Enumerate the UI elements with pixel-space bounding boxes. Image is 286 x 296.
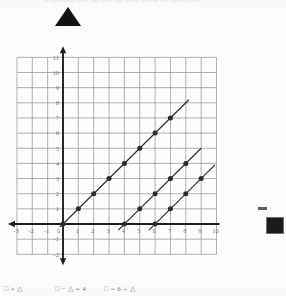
svg-text:1: 1 xyxy=(76,227,79,234)
svg-text:7: 7 xyxy=(168,227,172,234)
svg-text:11: 11 xyxy=(53,54,59,61)
legend-item-3-label: □ = 6 ÷ △ xyxy=(104,285,135,293)
svg-text:5: 5 xyxy=(137,227,140,234)
svg-text:0: 0 xyxy=(57,227,60,234)
data-point-s2-1 xyxy=(122,222,127,227)
axes xyxy=(8,46,220,265)
data-point-s2-3 xyxy=(153,191,158,196)
data-point-s3-2 xyxy=(168,206,173,211)
data-point-s1-5 xyxy=(122,161,127,166)
svg-text:-2: -2 xyxy=(54,251,59,258)
legend-item-2-label: □ − △ = 4 xyxy=(55,285,86,293)
data-point-s1-3 xyxy=(91,191,96,196)
data-point-s1-8 xyxy=(168,115,173,120)
data-point-s3-1 xyxy=(153,222,158,227)
svg-text:8: 8 xyxy=(56,99,59,106)
svg-text:-3: -3 xyxy=(13,227,18,234)
svg-text:6: 6 xyxy=(152,227,156,234)
svg-text:3: 3 xyxy=(56,175,59,182)
series-line-3 xyxy=(149,165,215,230)
legend-item-1-label: □ = △ xyxy=(4,285,23,293)
series-points xyxy=(61,115,204,226)
data-point-s3-3 xyxy=(183,191,188,196)
svg-text:10: 10 xyxy=(212,227,219,234)
svg-text:8: 8 xyxy=(183,227,186,234)
legend-item-2: □ − △ = 4 xyxy=(55,285,86,294)
svg-text:9: 9 xyxy=(199,227,202,234)
legend: □ = △ □ − △ = 4 □ = 6 ÷ △ xyxy=(0,283,286,296)
tick-labels: -3-2-1123456789100-2-11234567891011 xyxy=(13,54,219,258)
data-point-s1-2 xyxy=(76,206,81,211)
data-point-s2-2 xyxy=(137,206,142,211)
worksheet-page: Graph each line and find the point where… xyxy=(0,0,286,296)
data-point-s3-4 xyxy=(199,176,204,181)
legend-item-3: □ = 6 ÷ △ xyxy=(104,285,135,294)
svg-text:10: 10 xyxy=(53,69,60,76)
series-lines xyxy=(60,100,215,230)
svg-text:-1: -1 xyxy=(54,235,59,242)
data-point-s1-6 xyxy=(137,146,142,151)
series-line-2 xyxy=(118,148,201,230)
data-point-s2-5 xyxy=(183,161,188,166)
data-point-s1-1 xyxy=(61,222,66,227)
svg-text:-2: -2 xyxy=(29,227,34,234)
svg-text:3: 3 xyxy=(106,227,109,234)
svg-text:5: 5 xyxy=(56,145,59,152)
coordinate-plane: -3-2-1123456789100-2-11234567891011 xyxy=(0,0,286,296)
data-point-s1-4 xyxy=(107,176,112,181)
svg-text:2: 2 xyxy=(56,190,59,197)
data-point-s1-7 xyxy=(153,131,158,136)
data-point-s2-4 xyxy=(168,176,173,181)
svg-text:1: 1 xyxy=(56,205,59,212)
legend-item-1: □ = △ xyxy=(4,285,23,294)
svg-text:9: 9 xyxy=(56,84,59,91)
svg-text:-1: -1 xyxy=(44,227,49,234)
svg-text:2: 2 xyxy=(91,227,94,234)
svg-text:4: 4 xyxy=(122,227,126,234)
